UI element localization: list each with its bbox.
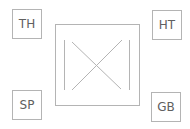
center-x-symbol-icon: [0, 0, 190, 129]
